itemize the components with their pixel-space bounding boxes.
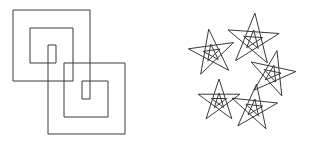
pentagram-figure [188, 13, 296, 129]
outer-star [188, 29, 233, 74]
star-group [188, 29, 233, 74]
square-spiral-figure [13, 10, 125, 134]
outer-star [232, 84, 277, 129]
spiral-path [13, 10, 125, 134]
star-group [232, 84, 277, 129]
drawing-canvas [0, 0, 313, 142]
outer-star [228, 13, 279, 63]
star-group [228, 13, 279, 63]
star-group [198, 79, 240, 119]
